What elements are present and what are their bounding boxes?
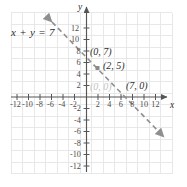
x-tick-label--6: -6 [47, 101, 54, 109]
y-tick-label-6: 6 [77, 59, 81, 67]
x-tick-label-6: 6 [119, 101, 123, 109]
graph-figure: x + y = 7 x y -12 -10 -8 -6 -4 -2 2 4 6 … [0, 0, 187, 187]
y-axis-label: y [78, 3, 82, 13]
x-tick-label-4: 4 [107, 101, 111, 109]
y-tick-label--4: -4 [74, 117, 81, 125]
x-tick-label--12: -12 [10, 101, 21, 109]
y-tick-label--8: -8 [74, 140, 81, 148]
x-tick-label-10: 10 [140, 101, 148, 109]
y-tick-label-12: 12 [71, 25, 79, 33]
x-tick-label-8: 8 [130, 101, 134, 109]
x-tick-label--10: -10 [22, 101, 33, 109]
y-tick-label-4: 4 [77, 71, 81, 79]
point-label-7-0: (7, 0) [126, 81, 148, 91]
equation-label: x + y = 7 [11, 27, 55, 38]
point-label-0-0: (0, 0) [90, 82, 112, 92]
x-tick-label--8: -8 [36, 101, 43, 109]
y-tick-label-10: 10 [71, 36, 79, 44]
x-axis-label: x [170, 101, 174, 111]
point-label-2-5: (2, 5) [103, 61, 125, 71]
point-label-0-7: (0, 7) [90, 47, 112, 57]
x-tick-label--4: -4 [59, 101, 66, 109]
point-marker-2-5 [96, 66, 100, 70]
y-tick-label-2: 2 [77, 82, 81, 90]
y-tick-label--2: -2 [74, 105, 81, 113]
y-tick-label-8: 8 [77, 48, 81, 56]
x-tick-label-12: 12 [151, 101, 159, 109]
x-tick-label-2: 2 [96, 101, 100, 109]
y-tick-label--10: -10 [70, 151, 81, 159]
y-tick-label--6: -6 [74, 128, 81, 136]
y-tick-label--12: -12 [70, 163, 81, 171]
